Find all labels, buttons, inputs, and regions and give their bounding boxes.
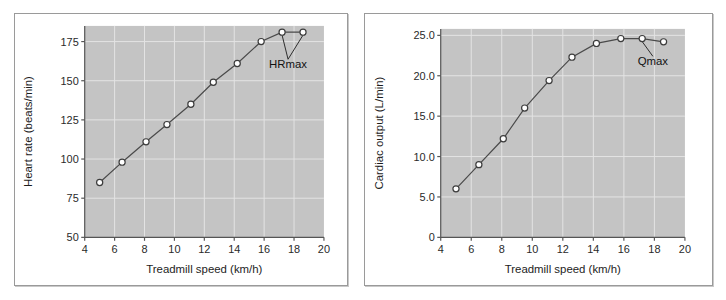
x-tick-label: 4 — [438, 243, 444, 255]
y-axis-title: Cardiac output (L/min) — [373, 76, 385, 189]
x-tick-label: 12 — [198, 243, 210, 255]
data-point-marker — [500, 136, 506, 142]
y-tick-label: 175 — [61, 36, 79, 48]
data-point-marker — [143, 139, 149, 145]
y-tick-label: 5.0 — [420, 191, 435, 203]
data-point-marker — [453, 186, 459, 192]
y-tick-label: 125 — [61, 114, 79, 126]
x-tick-label: 20 — [318, 243, 330, 255]
x-axis-title: Treadmill speed (km/h) — [505, 263, 621, 275]
data-point-marker — [119, 159, 125, 165]
data-point-marker — [546, 78, 552, 84]
x-tick-label: 10 — [168, 243, 180, 255]
data-point-marker — [258, 38, 264, 44]
x-tick-label: 16 — [258, 243, 270, 255]
data-point-marker — [618, 36, 624, 42]
data-point-marker — [660, 39, 666, 45]
data-point-marker — [97, 179, 103, 185]
heart-rate-chart: HRmax4681012141618205075100125150175Trea… — [15, 14, 347, 285]
y-tick-label: 50 — [67, 231, 79, 243]
data-point-marker — [234, 60, 240, 66]
data-point-marker — [476, 162, 482, 168]
y-tick-label: 0 — [429, 231, 435, 243]
annotation-label-hrmax: HRmax — [269, 58, 307, 70]
data-point-marker — [569, 54, 575, 60]
x-tick-label: 20 — [679, 243, 691, 255]
data-point-marker — [188, 101, 194, 107]
x-tick-label: 6 — [468, 243, 474, 255]
x-tick-label: 10 — [526, 243, 538, 255]
x-tick-label: 6 — [112, 243, 118, 255]
cardiac-output-chart: Qmax46810121416182005.010.015.020.025.0T… — [365, 14, 712, 285]
y-tick-label: 150 — [61, 75, 79, 87]
y-tick-label: 20.0 — [414, 70, 435, 82]
y-tick-label: 75 — [67, 192, 79, 204]
x-tick-label: 18 — [648, 243, 660, 255]
data-point-marker — [279, 29, 285, 35]
x-tick-label: 14 — [587, 243, 599, 255]
data-point-marker — [300, 29, 306, 35]
figure-root: HRmax4681012141618205075100125150175Trea… — [0, 0, 726, 300]
data-point-marker — [639, 36, 645, 42]
x-tick-label: 18 — [288, 243, 300, 255]
data-point-marker — [593, 40, 599, 46]
y-tick-label: 10.0 — [414, 151, 435, 163]
y-tick-label: 25.0 — [414, 29, 435, 41]
x-tick-label: 12 — [557, 243, 569, 255]
heart-rate-panel: HRmax4681012141618205075100125150175Trea… — [14, 13, 348, 286]
data-point-marker — [164, 122, 170, 128]
x-tick-label: 4 — [82, 243, 88, 255]
x-tick-label: 8 — [499, 243, 505, 255]
x-tick-label: 14 — [228, 243, 240, 255]
y-axis-title: Heart rate (beats/min) — [22, 76, 34, 187]
cardiac-output-panel: Qmax46810121416182005.010.015.020.025.0T… — [364, 13, 713, 286]
x-tick-label: 16 — [618, 243, 630, 255]
x-tick-label: 8 — [141, 243, 147, 255]
annotation-label-qmax: Qmax — [638, 55, 669, 67]
data-point-marker — [522, 105, 528, 111]
y-tick-label: 15.0 — [414, 110, 435, 122]
y-tick-label: 100 — [61, 153, 79, 165]
x-axis-title: Treadmill speed (km/h) — [146, 263, 262, 275]
data-point-marker — [210, 79, 216, 85]
